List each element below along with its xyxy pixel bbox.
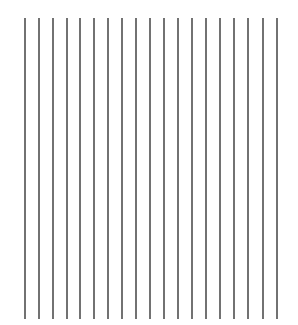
vertical-line	[233, 18, 235, 319]
vertical-line	[163, 18, 165, 319]
vertical-line	[52, 18, 54, 319]
vertical-lines-figure	[0, 0, 298, 325]
vertical-line	[149, 18, 151, 319]
vertical-line	[79, 18, 81, 319]
vertical-line	[191, 18, 193, 319]
vertical-line	[93, 18, 95, 319]
vertical-line	[262, 18, 264, 319]
vertical-line	[276, 18, 278, 319]
vertical-line	[121, 18, 123, 319]
vertical-line	[219, 18, 221, 319]
vertical-line	[205, 18, 207, 319]
vertical-line	[38, 18, 40, 319]
vertical-line	[24, 18, 26, 319]
vertical-line	[66, 18, 68, 319]
vertical-line	[135, 18, 137, 319]
vertical-line	[247, 18, 249, 319]
vertical-line	[107, 18, 109, 319]
vertical-line	[177, 18, 179, 319]
